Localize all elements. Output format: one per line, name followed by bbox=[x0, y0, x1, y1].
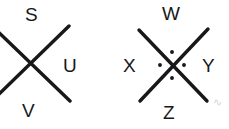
strokes-group bbox=[0, 26, 208, 101]
right-x-figure-dot-right bbox=[181, 62, 186, 67]
right-x-figure-label-z: Z bbox=[163, 103, 175, 122]
left-x-figure-label-u: U bbox=[63, 56, 77, 75]
left-x-figure-label-v: V bbox=[22, 101, 35, 120]
right-x-figure-dot-left bbox=[157, 62, 162, 67]
corner-watermark: ∿ bbox=[213, 96, 221, 109]
right-x-figure-label-y: Y bbox=[202, 56, 215, 75]
left-x-figure-label-s: S bbox=[25, 5, 38, 24]
right-x-figure-label-w: W bbox=[162, 4, 180, 23]
right-x-figure-dot-bottom bbox=[169, 75, 174, 80]
right-x-figure-dot-top bbox=[169, 49, 174, 54]
right-x-figure-label-x: X bbox=[123, 56, 136, 75]
diagram-canvas: SUVWXYZ ∿ bbox=[0, 0, 229, 129]
